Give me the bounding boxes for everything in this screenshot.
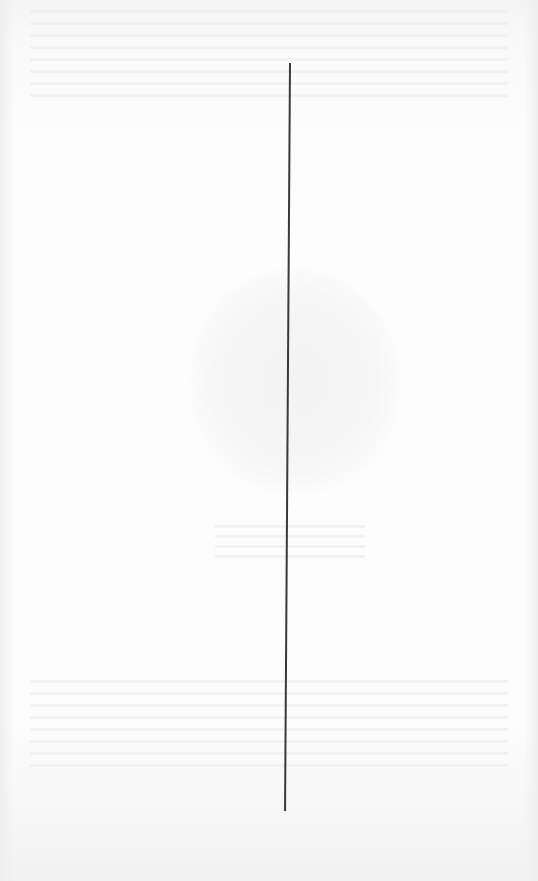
faint-show-through-text-bottom (30, 680, 508, 770)
faint-show-through-caption (215, 525, 365, 565)
blank-page (0, 0, 538, 881)
faint-show-through-figure (190, 268, 400, 493)
page-edge-shadow-right (524, 0, 538, 881)
page-edge-shadow-left (0, 0, 14, 881)
faint-show-through-text-top (30, 10, 508, 100)
